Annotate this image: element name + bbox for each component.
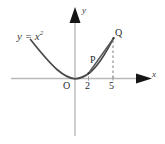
x-axis-arrow-icon [136,74,152,84]
coordinate-plane-svg [0,0,165,144]
curve-function-exponent: 2 [40,29,44,37]
x-tick-label-2: 2 [85,81,90,91]
y-axis-arrow-icon [70,7,81,23]
curve-function-base: y = x [17,30,40,42]
parabola-figure: y = x2 y x O 2 5 P Q [0,0,165,144]
point-p-marker [88,72,90,74]
parabola-curve [31,38,114,79]
point-q-label: Q [115,28,122,38]
y-axis-label: y [82,6,86,15]
x-axis-label: x [152,70,156,79]
x-tick-label-5: 5 [109,81,114,91]
curve-function-label: y = x2 [17,30,43,42]
point-p-label: P [90,55,96,65]
origin-label: O [63,81,70,91]
